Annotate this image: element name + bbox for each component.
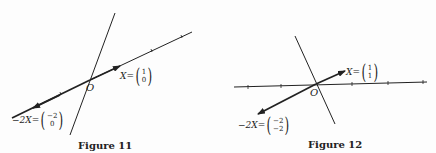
- vector-x-label: X = ( 11 ): [346, 62, 380, 82]
- vector-x-label: X = ( 10 ): [120, 66, 154, 86]
- line-steep: [70, 13, 115, 135]
- origin-label: O: [310, 88, 318, 98]
- vector-neg2x-label: −2X = ( −20 ): [12, 110, 65, 130]
- figure-caption: Figure 11: [78, 140, 132, 151]
- arrow-neg2x: [33, 95, 60, 108]
- origin-label: O: [86, 83, 94, 93]
- arrow-neg2x: [258, 84, 316, 114]
- arrow-x: [316, 71, 345, 84]
- figure-12-graph: [234, 36, 427, 124]
- figure-page: O X = ( 10 ) −2X = ( −20 ) Figure 11 O X…: [0, 0, 436, 153]
- vector-neg2x-label: −2X = ( −2−2 ): [238, 115, 291, 135]
- line-horizontal: [234, 82, 427, 87]
- line-steep: [295, 36, 335, 124]
- figure-caption: Figure 12: [308, 139, 362, 150]
